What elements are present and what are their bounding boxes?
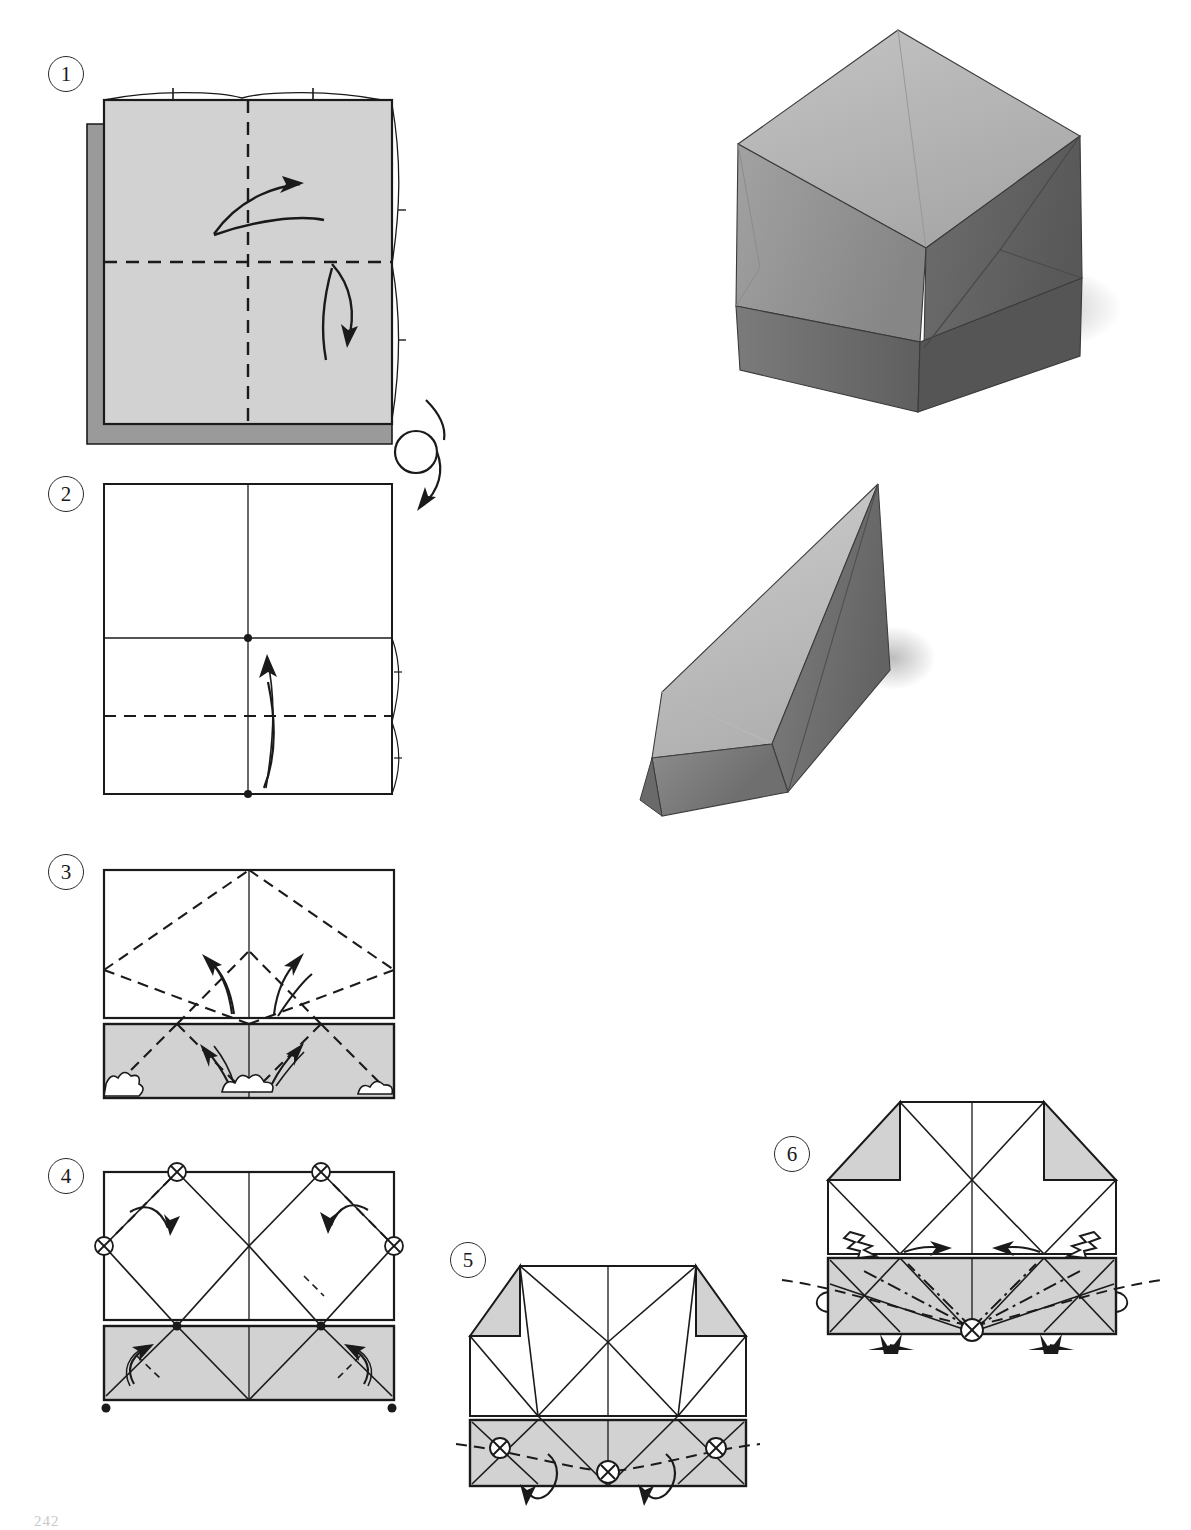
- reference-dot-center: [244, 634, 252, 642]
- loop-tab-right: [1116, 1292, 1127, 1312]
- crossed-circle-right: [706, 1438, 726, 1458]
- loop-tab-left: [817, 1292, 828, 1312]
- photo-cube: [700, 18, 1120, 448]
- step-2-panel: 2: [42, 458, 442, 818]
- crossed-circle-center: [597, 1461, 619, 1483]
- arrow-roll-right-head: [638, 1484, 654, 1506]
- photo-wedge: [540, 462, 970, 852]
- step-6-panel: 6: [772, 1088, 1172, 1388]
- gray-corner-left: [828, 1102, 900, 1180]
- junction-dot-left: [173, 1322, 182, 1331]
- paper-right-layer-upper: [392, 638, 399, 722]
- step-6-diagram: [772, 1088, 1172, 1388]
- page-folio: 242: [34, 1513, 60, 1530]
- dot-bottom-right: [388, 1404, 397, 1413]
- gray-corner-right: [1044, 1102, 1116, 1180]
- step-1-diagram: [42, 52, 442, 452]
- reference-dot-bottom: [244, 790, 252, 798]
- step-4-diagram: [42, 1146, 442, 1436]
- arrow-roll-left-head: [520, 1484, 536, 1506]
- crossed-circle-mid-right: [385, 1237, 403, 1255]
- step-number-5: 5: [450, 1242, 486, 1278]
- step-number-4: 4: [48, 1158, 84, 1194]
- crossed-circle-top-right: [312, 1163, 330, 1181]
- step-number-6: 6: [774, 1136, 810, 1172]
- step-3-panel: 3: [42, 848, 442, 1128]
- step-5-diagram: [448, 1232, 788, 1522]
- photo-cube-image: [700, 18, 1120, 448]
- step-number-1: 1: [48, 56, 84, 92]
- crossed-circle-center: [961, 1319, 983, 1341]
- step-number-3: 3: [48, 854, 84, 890]
- step-3-diagram: [42, 848, 442, 1128]
- step-number-2: 2: [48, 476, 84, 512]
- crossed-circle-mid-left: [95, 1237, 113, 1255]
- crossed-circle-top-left: [168, 1163, 186, 1181]
- crossed-circle-left: [490, 1438, 510, 1458]
- step-1-panel: 1: [42, 52, 442, 452]
- gray-corner-left: [470, 1266, 520, 1336]
- step-5-panel: 5: [448, 1232, 788, 1522]
- step-2-diagram: [42, 458, 442, 818]
- sink-mark-right: [1028, 1334, 1074, 1354]
- step-4-panel: 4: [42, 1146, 442, 1436]
- photo-wedge-image: [540, 462, 970, 852]
- junction-dot-right: [317, 1322, 326, 1331]
- gray-corner-right: [696, 1266, 746, 1336]
- paper-top-flap-edge: [104, 93, 382, 100]
- dot-bottom-left: [102, 1404, 111, 1413]
- sink-mark-left: [868, 1334, 914, 1354]
